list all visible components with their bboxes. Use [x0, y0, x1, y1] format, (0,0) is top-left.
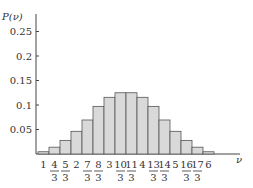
- y-tick-label: 0.2: [16, 51, 32, 62]
- bar: [126, 93, 137, 154]
- x-tick-label: 1: [40, 159, 46, 170]
- bar: [38, 152, 49, 154]
- y-axis-label: P(ν): [1, 11, 23, 22]
- y-tick-label: 0.15: [10, 75, 32, 86]
- bar: [82, 120, 93, 154]
- bar: [192, 147, 203, 154]
- bar: [159, 120, 170, 154]
- bar: [115, 93, 126, 154]
- bar: [203, 152, 214, 154]
- x-tick-denominator: 3: [95, 172, 101, 183]
- x-tick-label: 6: [205, 159, 211, 170]
- bar: [71, 131, 82, 154]
- x-tick-denominator: 3: [51, 172, 57, 183]
- x-tick-denominator: 3: [183, 172, 189, 183]
- x-tick-denominator: 3: [161, 172, 167, 183]
- x-tick-denominator: 3: [150, 172, 156, 183]
- bar: [148, 106, 159, 154]
- x-tick-label: 3: [106, 159, 112, 170]
- x-tick-denominator: 3: [128, 172, 134, 183]
- x-tick-numerator: 17: [191, 159, 204, 170]
- bar: [104, 97, 115, 154]
- x-tick-numerator: 5: [62, 159, 68, 170]
- x-tick-label: 4: [139, 159, 145, 170]
- x-tick-numerator: 4: [51, 159, 57, 170]
- bar: [181, 140, 192, 154]
- x-tick-denominator: 3: [194, 172, 200, 183]
- x-tick-numerator: 7: [84, 159, 90, 170]
- x-tick-label: 2: [73, 159, 79, 170]
- bar: [93, 106, 104, 154]
- x-tick-denominator: 3: [84, 172, 90, 183]
- x-axis-label: ν: [236, 154, 242, 165]
- bar: [170, 131, 181, 154]
- x-tick-label: 5: [172, 159, 178, 170]
- y-tick-label: 0.1: [16, 100, 32, 111]
- x-ticks: 14353273833103113413314351631736: [40, 159, 211, 183]
- chart: 0.050.10.150.20.25 143532738331031134133…: [0, 0, 253, 188]
- bar: [137, 97, 148, 154]
- y-tick-label: 0.25: [10, 26, 32, 37]
- y-tick-label: 0.05: [10, 124, 32, 135]
- x-tick-numerator: 14: [158, 159, 171, 170]
- bars: [38, 93, 214, 154]
- x-tick-denominator: 3: [117, 172, 123, 183]
- bar: [60, 140, 71, 154]
- y-ticks: 0.050.10.150.20.25: [10, 26, 39, 135]
- x-tick-numerator: 11: [125, 159, 138, 170]
- bar: [49, 147, 60, 154]
- x-tick-denominator: 3: [62, 172, 68, 183]
- x-tick-numerator: 8: [95, 159, 101, 170]
